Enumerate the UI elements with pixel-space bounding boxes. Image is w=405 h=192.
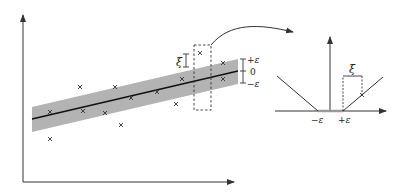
slack-label-right: ξ [349, 63, 356, 76]
loss-minus-epsilon-label: −ε [311, 115, 324, 125]
regression-plot: ξ +ε 0 −ε [23, 15, 260, 182]
loss-plus-epsilon-label: +ε [338, 115, 351, 125]
plus-epsilon-label: +ε [247, 55, 260, 65]
minus-epsilon-label: −ε [247, 79, 260, 89]
curved-arrow-icon [211, 26, 293, 45]
data-point-marker [78, 85, 82, 89]
loss-left-arm [277, 76, 318, 111]
loss-slack-bracket [343, 76, 362, 111]
regression-line [32, 71, 238, 119]
data-point-marker [119, 123, 123, 127]
data-point-marker [174, 102, 178, 106]
epsilon-bracket [240, 59, 246, 83]
loss-plot: ξ −ε +ε [275, 37, 386, 125]
slack-bracket [183, 54, 189, 67]
zero-label: 0 [250, 67, 256, 77]
slack-label-left: ξ [176, 56, 183, 69]
data-point-marker [198, 51, 202, 55]
data-point-marker [48, 137, 52, 141]
svr-diagram: ξ +ε 0 −ε ξ −ε [0, 0, 405, 192]
